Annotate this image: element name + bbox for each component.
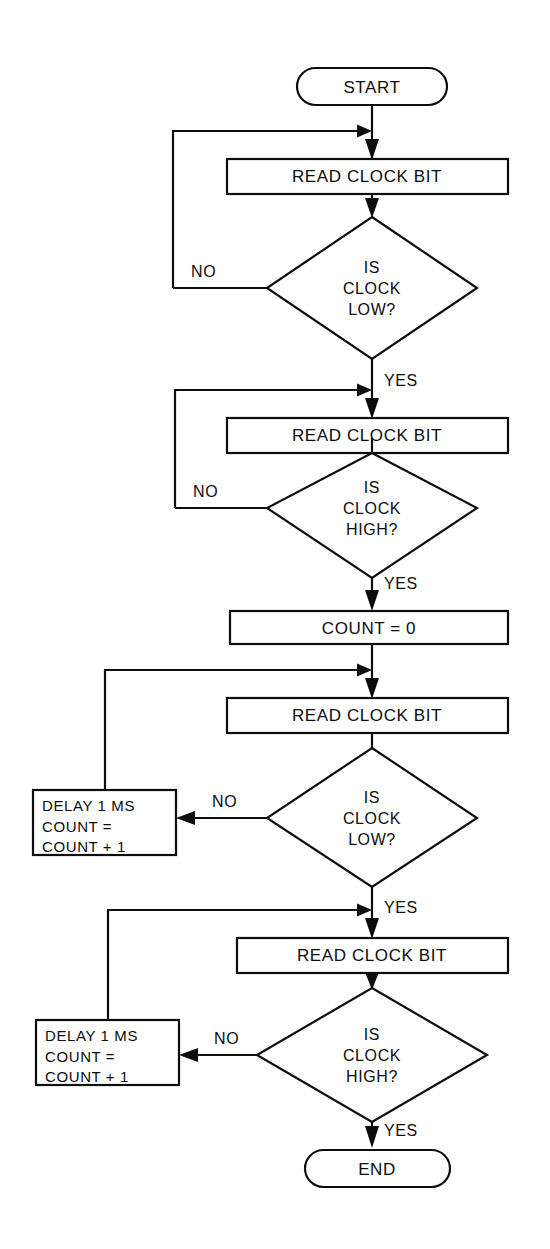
edge-decision1-yes-arrowhead	[365, 398, 379, 419]
edge-decision3-yes-arrowhead	[365, 918, 379, 939]
decision-clock-high-1-line2: CLOCK	[343, 500, 401, 517]
edge-decision4-yes-arrowhead	[365, 1126, 379, 1148]
edge-decision4-no-arrowhead	[179, 1048, 198, 1062]
process-read-clock-bit-1-label: READ CLOCK BIT	[292, 167, 442, 186]
start-terminal[interactable]: START	[297, 68, 447, 105]
edge-label-yes-2: YES	[384, 575, 418, 592]
process-delay-1-line2: COUNT =	[42, 818, 112, 835]
edge-label-no-1: NO	[191, 263, 216, 280]
process-read-clock-bit-4[interactable]: READ CLOCK BIT	[237, 938, 508, 973]
end-terminal[interactable]: END	[305, 1150, 450, 1187]
edge-label-yes-3: YES	[384, 899, 418, 916]
process-count-reset-label: COUNT = 0	[322, 619, 416, 638]
decision-clock-low-1-line3: LOW?	[348, 301, 396, 318]
decision-clock-high-2-line3: HIGH?	[346, 1068, 398, 1085]
process-read-clock-bit-3[interactable]: READ CLOCK BIT	[227, 698, 508, 733]
decision-clock-low-2-line1: IS	[364, 789, 380, 806]
process-read-clock-bit-4-label: READ CLOCK BIT	[297, 946, 447, 965]
edge-start-arrowhead	[365, 139, 379, 160]
loopback-1-arrowhead	[357, 125, 372, 138]
process-delay-1-line3: COUNT + 1	[42, 838, 126, 855]
edge-label-no-4: NO	[214, 1030, 239, 1047]
end-terminal-label: END	[358, 1160, 396, 1179]
decision-clock-high-2-line2: CLOCK	[343, 1047, 401, 1064]
decision-clock-low-2-line2: CLOCK	[343, 810, 401, 827]
flowchart-svg: START READ CLOCK BIT IS CLOCK LOW? NO YE…	[0, 0, 550, 1249]
loopback-3-arrowhead	[357, 664, 372, 677]
process-delay-2[interactable]: DELAY 1 MS COUNT = COUNT + 1	[36, 1020, 179, 1085]
edge-count-arrowhead	[365, 678, 379, 699]
process-read-clock-bit-1[interactable]: READ CLOCK BIT	[227, 159, 508, 194]
decision-clock-high-1-line3: HIGH?	[346, 521, 398, 538]
decision-clock-high-2[interactable]: IS CLOCK HIGH?	[257, 988, 487, 1122]
edge-label-no-2: NO	[193, 483, 218, 500]
decision-clock-low-1-line2: CLOCK	[343, 280, 401, 297]
edge-decision3-no-arrowhead	[176, 811, 195, 825]
process-count-reset[interactable]: COUNT = 0	[230, 611, 508, 644]
process-delay-2-line3: COUNT + 1	[45, 1068, 129, 1085]
edge-label-no-3: NO	[212, 793, 237, 810]
process-delay-1-line1: DELAY 1 MS	[42, 797, 135, 814]
loopback-4-arrowhead	[357, 904, 372, 917]
decision-clock-low-1[interactable]: IS CLOCK LOW?	[267, 217, 477, 359]
decision-clock-high-1-line1: IS	[364, 479, 380, 496]
process-delay-1[interactable]: DELAY 1 MS COUNT = COUNT + 1	[33, 790, 176, 855]
process-delay-2-line2: COUNT =	[45, 1048, 115, 1065]
flowchart-canvas: START READ CLOCK BIT IS CLOCK LOW? NO YE…	[0, 0, 550, 1249]
loopback-2-arrowhead	[357, 384, 372, 397]
process-read-clock-bit-3-label: READ CLOCK BIT	[292, 706, 442, 725]
decision-clock-high-1[interactable]: IS CLOCK HIGH?	[267, 453, 477, 578]
process-read-clock-bit-2[interactable]: READ CLOCK BIT	[227, 418, 508, 453]
process-read-clock-bit-2-label: READ CLOCK BIT	[292, 426, 442, 445]
decision-clock-low-2-line3: LOW?	[348, 831, 396, 848]
decision-clock-low-1-line1: IS	[364, 259, 380, 276]
decision-clock-low-2[interactable]: IS CLOCK LOW?	[267, 748, 477, 887]
edge-label-yes-4: YES	[384, 1122, 418, 1139]
edge-decision2-yes-arrowhead	[365, 590, 379, 611]
process-delay-2-line1: DELAY 1 MS	[45, 1027, 138, 1044]
start-terminal-label: START	[343, 78, 400, 97]
edge-label-yes-1: YES	[384, 372, 418, 389]
decision-clock-high-2-line1: IS	[364, 1026, 380, 1043]
edge-read1-arrowhead	[365, 198, 379, 218]
